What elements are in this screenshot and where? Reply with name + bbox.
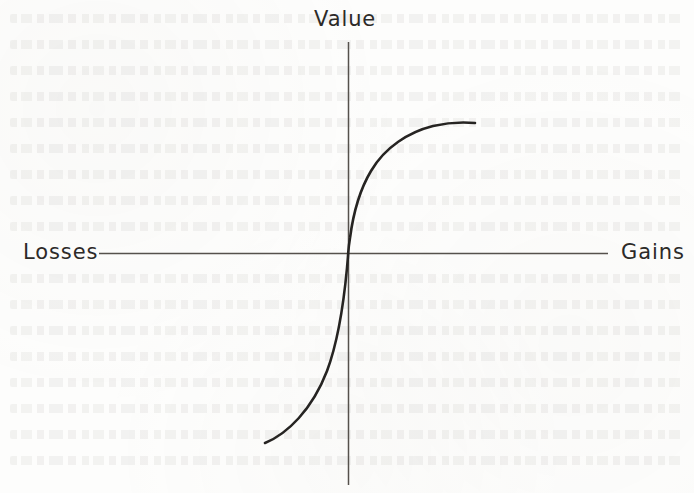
value-function-figure: Value Losses Gains	[0, 0, 694, 493]
y-axis-label-value: Value	[314, 9, 376, 30]
x-axis-label-losses: Losses	[23, 242, 98, 263]
value-function-plot	[0, 0, 694, 493]
x-axis-label-gains: Gains	[621, 242, 685, 263]
value-function-curve	[265, 123, 475, 443]
